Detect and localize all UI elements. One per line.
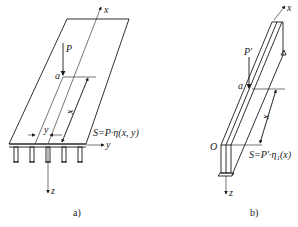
figure-a: x y z P a x y S=P·η(x, y) a) (9, 4, 140, 219)
caption-b: b) (250, 207, 258, 219)
z-axis-label-a: z (50, 185, 55, 196)
dimension-y-label-a: y (43, 124, 49, 135)
dimension-x-label-b: x (260, 114, 271, 120)
x-axis-label-b: x (286, 2, 292, 13)
point-label-b: a (238, 80, 243, 91)
load-label-p-prime: P′ (243, 46, 253, 57)
dimension-x-label-a: x (64, 109, 75, 115)
origin-label-o: O (210, 141, 217, 152)
load-label-p: P (65, 43, 72, 54)
formula-b: S=P′·η₁(x) (249, 149, 292, 161)
z-axis-label-b: z (228, 187, 233, 198)
point-label-a: a (55, 70, 60, 81)
y-axis-label-a: y (105, 139, 111, 150)
figure-b: x z O P′ a x S=P′·η₁(x) b) (210, 2, 292, 219)
x-axis-label-a: x (103, 4, 109, 15)
x-axis-b (274, 6, 285, 20)
caption-a: a) (73, 207, 81, 219)
formula-a: S=P·η(x, y) (93, 127, 140, 139)
